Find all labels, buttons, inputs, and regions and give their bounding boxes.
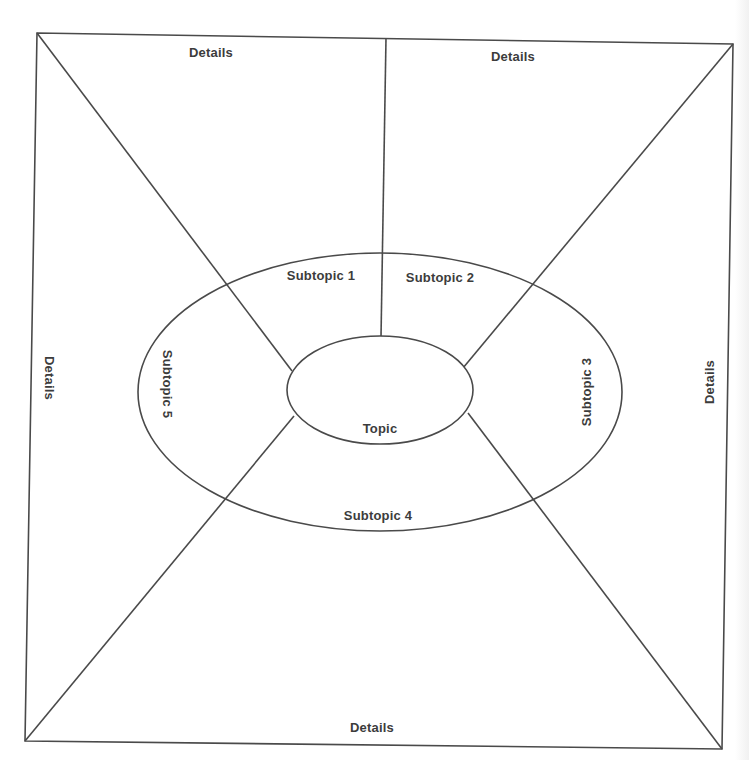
subtopic-label-1: Subtopic 1 (287, 268, 355, 283)
details-label-bottom: Details (350, 720, 394, 735)
divider-top-left-diagonal (37, 33, 292, 371)
subtopic-label-3: Subtopic 3 (579, 358, 594, 426)
subtopic-label-2: Subtopic 2 (406, 270, 474, 285)
divider-top-vertical (381, 38, 386, 337)
details-label-left: Details (42, 356, 57, 400)
divider-bottom-right-diagonal (468, 413, 722, 749)
divider-top-right-diagonal (463, 44, 733, 368)
subtopic-label-4: Subtopic 4 (344, 508, 413, 523)
subtopic-label-5: Subtopic 5 (160, 350, 175, 418)
details-label-right: Details (702, 360, 717, 404)
topic-label: Topic (363, 421, 398, 436)
divider-bottom-left-diagonal (25, 416, 294, 741)
details-label-top-left: Details (189, 45, 233, 60)
topic-web-diagram: Details Details Details Details Details … (0, 0, 749, 760)
details-label-top-right: Details (491, 49, 535, 64)
